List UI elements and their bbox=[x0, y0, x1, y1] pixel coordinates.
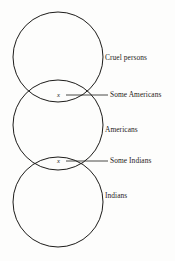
circle-cruel-persons bbox=[13, 12, 103, 102]
venn-diagram: x x Cruel persons Americans Indians Some… bbox=[0, 0, 175, 261]
label-americans: Americans bbox=[105, 126, 138, 133]
label-indians: Indians bbox=[105, 192, 127, 199]
label-cruel-persons: Cruel persons bbox=[105, 54, 147, 61]
existence-marker-some-indians: x bbox=[57, 158, 60, 165]
label-some-indians: Some Indians bbox=[110, 157, 151, 164]
venn-diagram-canvas bbox=[0, 0, 175, 261]
label-some-americans: Some Americans bbox=[110, 91, 161, 98]
existence-marker-some-americans: x bbox=[57, 92, 60, 99]
